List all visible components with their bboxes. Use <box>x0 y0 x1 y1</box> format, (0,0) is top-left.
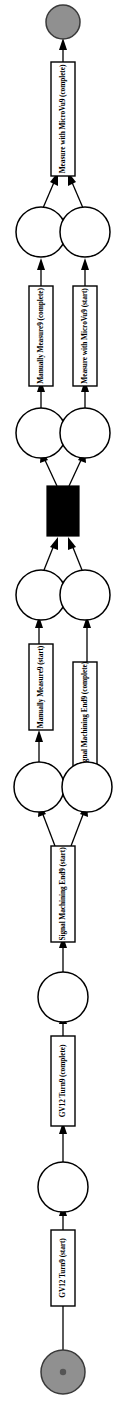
transition-manually-measure9-start[interactable]: Manually Measure9 (start) <box>29 644 53 730</box>
arc-t3-to-placeB <box>81 258 89 286</box>
transition-label: Manually Measure9 (complete) <box>36 288 45 384</box>
arc-p3-to-t4 <box>68 537 82 570</box>
transition-signal-machining-end9-complete[interactable]: Signal Machining End9 (complete) <box>73 661 97 768</box>
silent-transition[interactable] <box>47 486 79 536</box>
petri-net-diagram: Measure with MicroVu9 (complete) Manuall… <box>0 0 126 1408</box>
place-8[interactable] <box>62 762 112 812</box>
arc-p4-to-t4 <box>44 537 58 570</box>
transition-label: Signal Machining End9 (complete) <box>80 661 89 768</box>
transition-label: Manually Measure9 (start) <box>36 645 45 728</box>
place-3[interactable] <box>16 408 66 458</box>
place-5[interactable] <box>16 570 66 620</box>
place-9[interactable] <box>38 972 88 1022</box>
arc-t2-to-placeA <box>37 258 45 286</box>
petri-net-canvas: Measure with MicroVu9 (complete) Manuall… <box>0 0 126 1408</box>
transition-gv12-turn9-start[interactable]: GV12 Turn9 (start) <box>51 1230 75 1306</box>
transition-label: Measure with MicroVu9 (start) <box>80 288 89 384</box>
start-place[interactable] <box>41 1350 85 1394</box>
arc-t6-to-p3 <box>83 616 91 662</box>
place-10[interactable] <box>38 1162 88 1212</box>
place-7[interactable] <box>14 762 64 812</box>
arc-p8-to-t8 <box>59 1122 67 1162</box>
transition-label: Signal Machining End9 (start) <box>58 847 67 941</box>
arc-p6-to-t5 <box>35 730 43 762</box>
transition-signal-machining-end9-start[interactable]: Signal Machining End9 (start) <box>51 846 75 942</box>
transition-label: GV12 Turn9 (complete) <box>58 1044 67 1117</box>
transition-manually-measure9-complete[interactable]: Manually Measure9 (complete) <box>29 286 53 386</box>
place-4[interactable] <box>60 408 110 458</box>
place-2[interactable] <box>60 207 110 257</box>
transition-label: Measure with MicroVu9 (complete) <box>58 64 67 173</box>
transition-gv12-turn9-complete[interactable]: GV12 Turn9 (complete) <box>51 1036 75 1126</box>
place-6[interactable] <box>60 570 110 620</box>
arc-t1-to-end <box>59 38 67 62</box>
end-place[interactable] <box>46 5 80 39</box>
place-1[interactable] <box>16 207 66 257</box>
transition-label: GV12 Turn9 (start) <box>58 1238 67 1298</box>
arc-placeA-to-t1 <box>43 172 58 208</box>
token-dot <box>60 1369 66 1375</box>
transition-measure-with-microvu9-start[interactable]: Measure with MicroVu9 (start) <box>73 286 97 386</box>
transition-measure-with-microvu9-complete[interactable]: Measure with MicroVu9 (complete) <box>51 62 75 176</box>
arc-placeB-to-t1 <box>68 172 83 208</box>
